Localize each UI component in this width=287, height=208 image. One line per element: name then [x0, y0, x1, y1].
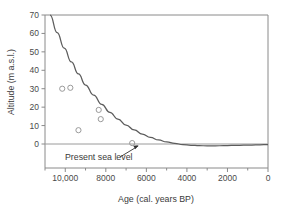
x-tick-label: 10,000: [52, 173, 78, 183]
data-point: [98, 117, 103, 122]
x-axis-title: Age (cal. years BP): [118, 194, 194, 204]
annotation-present-sea-level: Present sea level: [65, 152, 133, 162]
y-axis-title: Altitude (m a.s.l.): [6, 49, 16, 115]
data-point: [68, 85, 73, 90]
y-tick-label: 30: [30, 84, 40, 94]
chart-figure: 010203040506070 10,00080006000400020000 …: [0, 0, 287, 208]
y-tick-label: 40: [30, 65, 40, 75]
data-point: [96, 107, 101, 112]
x-tick-label: 6000: [137, 173, 156, 183]
data-points-group: [60, 85, 135, 145]
data-point: [130, 140, 135, 145]
y-tick-label: 10: [30, 121, 40, 131]
x-tick-label: 4000: [177, 173, 196, 183]
data-point: [76, 128, 81, 133]
x-axis: 10,00080006000400020000: [45, 168, 271, 183]
x-tick-label: 8000: [96, 173, 115, 183]
y-tick-label: 50: [30, 47, 40, 57]
y-tick-label: 0: [34, 139, 39, 149]
sea-level-curve-chart: 010203040506070 10,00080006000400020000 …: [0, 0, 287, 208]
x-tick-label: 2000: [218, 173, 237, 183]
y-tick-label: 20: [30, 102, 40, 112]
y-tick-label: 70: [30, 10, 40, 20]
sea-level-model-curve: [50, 15, 268, 146]
y-tick-label: 60: [30, 28, 40, 38]
x-tick-label: 0: [266, 173, 271, 183]
y-axis: 010203040506070: [30, 10, 45, 149]
data-point: [60, 86, 65, 91]
